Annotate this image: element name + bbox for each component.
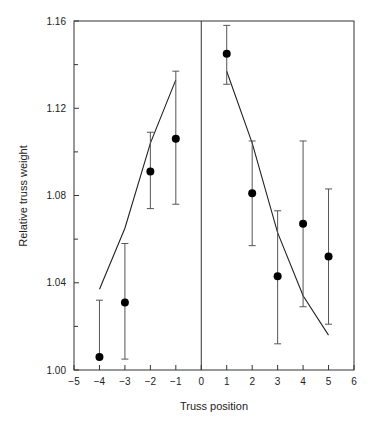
x-tick-label: 3 — [275, 376, 281, 387]
plot-border — [74, 21, 354, 370]
data-point — [223, 50, 231, 58]
x-tick-label: 6 — [351, 376, 357, 387]
model-fit-lines — [100, 71, 329, 335]
y-axis-title: Relative truss weight — [17, 145, 29, 247]
y-tick-label: 1.12 — [47, 103, 67, 114]
x-tick-label: 1 — [224, 376, 230, 387]
data-points — [95, 50, 332, 361]
data-point — [274, 272, 282, 280]
x-axis-title: Truss position — [180, 400, 248, 412]
truss-weight-chart: −5−4−3−2−10123456 1.001.041.081.121.16 T… — [0, 0, 376, 426]
x-tick-label: −2 — [145, 376, 157, 387]
y-tick-label: 1.04 — [47, 277, 67, 288]
y-tick-label: 1.16 — [47, 16, 67, 27]
x-tick-label: −4 — [94, 376, 106, 387]
x-axis: −5−4−3−2−10123456 — [68, 365, 357, 387]
data-point — [299, 220, 307, 228]
x-tick-label: 2 — [249, 376, 255, 387]
data-point — [325, 253, 333, 261]
x-tick-label: −3 — [119, 376, 131, 387]
x-tick-label: −1 — [170, 376, 182, 387]
plot-frame — [74, 21, 354, 370]
data-point — [146, 168, 154, 176]
x-tick-label: 4 — [300, 376, 306, 387]
data-point — [121, 298, 129, 306]
data-point — [248, 189, 256, 197]
x-tick-label: −5 — [68, 376, 80, 387]
data-point — [172, 135, 180, 143]
data-point — [95, 353, 103, 361]
y-tick-label: 1.00 — [47, 365, 67, 376]
error-bars — [96, 25, 332, 359]
x-tick-label: 5 — [326, 376, 332, 387]
x-tick-label: 0 — [198, 376, 204, 387]
fit-line — [100, 80, 176, 289]
y-tick-label: 1.08 — [47, 190, 67, 201]
